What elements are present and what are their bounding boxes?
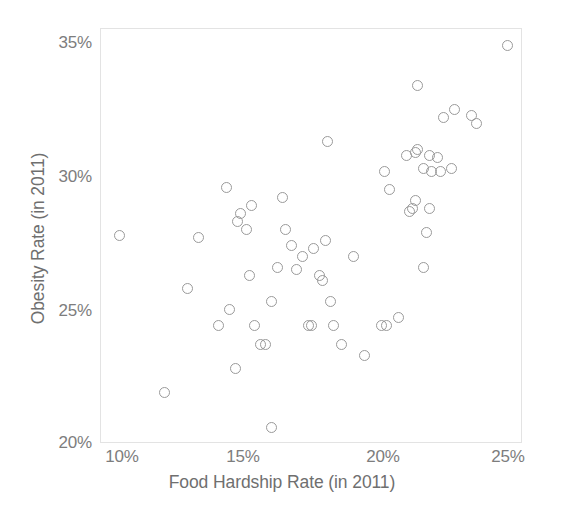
x-axis-tick-label: 10% — [105, 447, 138, 467]
x-axis-tick-label: 20% — [366, 447, 399, 467]
y-axis-tick-label: 20% — [59, 433, 92, 453]
plot-area-frame — [100, 28, 522, 443]
y-axis-tick-label: 30% — [59, 167, 92, 187]
y-axis-tick-label: 25% — [59, 301, 92, 321]
scatter-plot-figure: 35% 30% 25% 20% 10% 15% 20% 25% Food Har… — [0, 0, 564, 514]
x-axis-tick-label: 25% — [491, 447, 524, 467]
x-axis-title: Food Hardship Rate (in 2011) — [0, 472, 564, 493]
y-axis-tick-label: 35% — [59, 33, 92, 53]
x-axis-tick-label: 15% — [226, 447, 259, 467]
y-axis-title: Obesity Rate (in 2011) — [28, 129, 49, 349]
